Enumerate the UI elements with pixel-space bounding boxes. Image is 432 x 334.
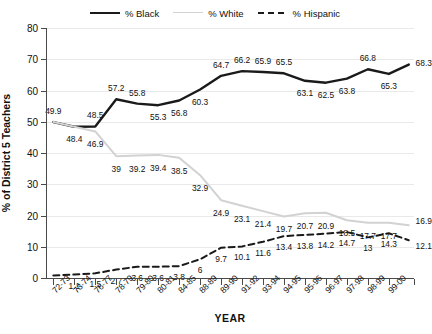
data-point-label: 14.7 (339, 238, 355, 248)
chart-legend: % Black % White % Hispanic (0, 4, 430, 22)
data-point-label: 6 (198, 265, 203, 275)
data-point-label: 13.8 (297, 241, 313, 251)
data-point-label: 62.5 (318, 90, 334, 100)
data-point-label: 66.8 (360, 53, 376, 63)
data-point-label: 10.1 (234, 252, 250, 262)
data-point-label: 9.7 (215, 254, 227, 264)
y-axis-title: % of District 5 Teachers (0, 28, 14, 278)
data-point-label: 49.9 (45, 106, 61, 116)
data-point-label: 13 (363, 243, 372, 253)
data-point-label: 19.7 (276, 224, 292, 234)
y-tick-label: 70 (27, 54, 38, 65)
legend-swatch-black-icon (90, 8, 120, 18)
data-point-label: 14.2 (318, 240, 334, 250)
data-point-label: 63.1 (297, 88, 313, 98)
legend-item-hispanic: % Hispanic (258, 8, 341, 19)
data-point-label: 11.6 (255, 248, 271, 258)
legend-swatch-white-icon (173, 8, 203, 18)
y-axis-title-text: % of District 5 Teachers (0, 94, 12, 212)
x-axis-title: YEAR (46, 312, 414, 324)
data-point-label: 20.7 (297, 221, 313, 231)
data-point-label: 18.5 (339, 228, 355, 238)
y-tick-label: 30 (27, 179, 38, 190)
legend-swatch-hispanic-icon (258, 8, 288, 18)
data-point-label: 17.7 (360, 231, 376, 241)
data-point-label: 66.2 (234, 55, 250, 65)
data-point-label: 46.9 (87, 139, 103, 149)
y-tick-label: 0 (32, 273, 38, 284)
data-point-label: 14.3 (381, 239, 397, 249)
data-point-label: 23.1 (234, 214, 250, 224)
data-point-label: 68.3 (416, 58, 432, 68)
legend-item-black: % Black (90, 8, 159, 19)
data-point-label: 48.5 (87, 110, 103, 120)
data-point-label: 20.9 (318, 221, 334, 231)
y-tick-label: 20 (27, 210, 38, 221)
legend-label-hispanic: % Hispanic (293, 8, 341, 19)
x-axis-line: 72-7373-7476-7778-7979-8080-8184-8588-89… (46, 278, 414, 279)
y-tick-label: 40 (27, 148, 38, 159)
data-point-label: 63.8 (339, 86, 355, 96)
x-tick (414, 279, 415, 285)
legend-item-white: % White (173, 8, 243, 19)
data-point-label: 56.8 (171, 108, 187, 118)
data-point-label: 39 (112, 164, 121, 174)
series-line-black (53, 65, 408, 127)
data-point-label: 39.2 (129, 164, 145, 174)
series-line-hispanic (53, 232, 408, 275)
y-axis-line (46, 28, 47, 278)
data-point-label: 57.2 (108, 83, 124, 93)
series-line-white (53, 122, 408, 225)
data-point-label: 39.4 (150, 163, 166, 173)
data-point-label: 55.8 (129, 88, 145, 98)
data-point-label: 38.5 (171, 166, 187, 176)
data-point-label: 12.1 (416, 241, 432, 251)
y-tick-label: 80 (27, 23, 38, 34)
data-point-label: 55.3 (150, 112, 166, 122)
data-point-label: 48.4 (66, 134, 82, 144)
data-point-label: 21.4 (255, 219, 271, 229)
data-point-label: 65.3 (381, 81, 397, 91)
plot-area: 49.948.448.557.255.855.356.860.364.766.2… (46, 28, 414, 278)
data-point-label: 24.9 (213, 208, 229, 218)
data-point-label: 16.9 (416, 216, 432, 226)
legend-label-black: % Black (125, 8, 159, 19)
data-point-label: 65.5 (276, 57, 292, 67)
y-tick-label: 10 (27, 241, 38, 252)
data-point-label: 64.7 (213, 60, 229, 70)
y-tick-label: 60 (27, 85, 38, 96)
data-point-label: 32.9 (192, 183, 208, 193)
data-point-label: 65.9 (255, 56, 271, 66)
legend-label-white: % White (208, 8, 243, 19)
y-tick-label: 50 (27, 116, 38, 127)
data-point-label: 13.4 (276, 242, 292, 252)
data-point-label: 60.3 (192, 97, 208, 107)
